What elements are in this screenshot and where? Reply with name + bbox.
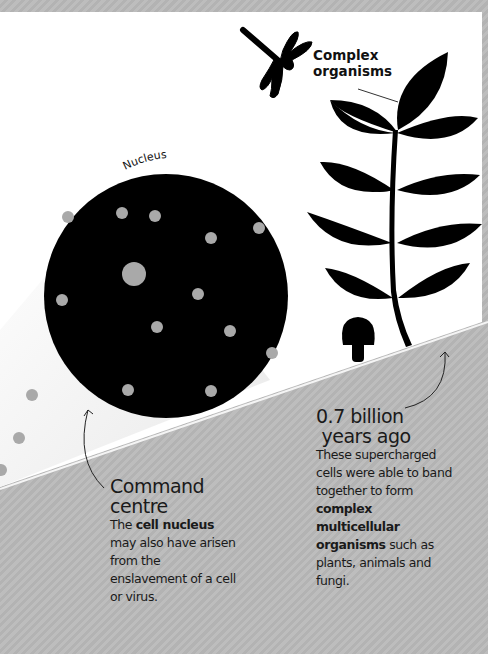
- billion-years-block: 0.7 billion years ago These supercharged…: [316, 406, 456, 590]
- text: may also have arisen from the enslavemen…: [110, 535, 236, 604]
- nucleus-circle: [44, 174, 288, 418]
- bold-text: cell nucleus: [136, 517, 214, 532]
- label-line: organisms: [313, 63, 392, 79]
- command-centre-block: Command centre The cell nucleus may also…: [110, 476, 240, 606]
- command-centre-text: The cell nucleus may also have arisen fr…: [110, 516, 240, 606]
- heading-line: years ago: [316, 426, 456, 446]
- heading-line: 0.7 billion: [316, 406, 456, 426]
- heading-line: centre: [110, 496, 240, 516]
- billion-years-heading: 0.7 billion years ago: [316, 406, 456, 446]
- heading-line: Command: [110, 476, 240, 496]
- complex-organisms-label: Complex organisms: [313, 47, 392, 79]
- command-centre-heading: Command centre: [110, 476, 240, 516]
- text: These supercharged cells were able to ba…: [316, 447, 452, 498]
- label-line: Complex: [313, 47, 392, 63]
- text: The: [110, 517, 136, 532]
- arrow-icon: [405, 352, 445, 408]
- billion-years-text: These supercharged cells were able to ba…: [316, 446, 456, 590]
